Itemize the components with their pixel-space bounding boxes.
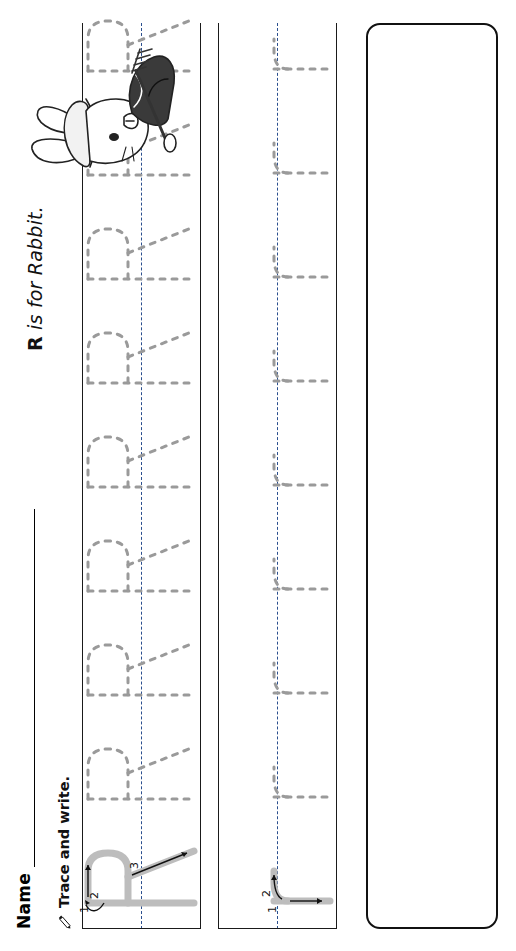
trace-letter-lowercase-1[interactable] — [218, 733, 336, 811]
trace-letter-uppercase-5[interactable] — [82, 317, 200, 395]
instruction-trace-and-write: Trace and write. — [56, 776, 72, 929]
title-letter: R — [24, 336, 46, 351]
name-label: Name — [14, 873, 35, 929]
trace-letter-lowercase-5[interactable] — [218, 317, 336, 395]
instruction-1-text: Trace and write. — [56, 776, 72, 908]
svg-text:3: 3 — [128, 862, 141, 869]
pencil-icon — [58, 914, 71, 929]
trace-letter-lowercase-2[interactable] — [218, 629, 336, 707]
rule-baseline-solid-2 — [336, 23, 337, 929]
trace-letter-lowercase-6[interactable] — [218, 213, 336, 291]
lowercase-glyph-row: 1 2 — [218, 23, 336, 929]
model-letter-lowercase: 1 2 — [218, 837, 336, 915]
handwriting-worksheet: Name R is for Rabbit. Trace and write. — [0, 0, 516, 951]
model-letter-uppercase: 1 2 3 — [82, 837, 200, 915]
trace-letter-lowercase-3[interactable] — [218, 525, 336, 603]
svg-text:2: 2 — [88, 892, 101, 899]
practice-band-lowercase[interactable]: 1 2 — [218, 23, 336, 929]
rule-baseline-solid — [200, 23, 201, 929]
trace-letter-uppercase-4[interactable] — [82, 421, 200, 499]
name-field[interactable]: Name — [14, 509, 35, 929]
trace-letter-uppercase-6[interactable] — [82, 213, 200, 291]
svg-text:1: 1 — [78, 906, 91, 913]
name-input-rule[interactable] — [20, 509, 35, 867]
trace-letter-lowercase-4[interactable] — [218, 421, 336, 499]
title-rest: is for Rabbit. — [24, 206, 46, 336]
trace-letter-lowercase-8[interactable] — [218, 5, 336, 83]
circle-activity-box[interactable] — [366, 23, 498, 929]
trace-letter-uppercase-3[interactable] — [82, 525, 200, 603]
page-title: R is for Rabbit. — [24, 206, 46, 351]
svg-text:2: 2 — [260, 890, 273, 897]
trace-letter-uppercase-1[interactable] — [82, 733, 200, 811]
svg-text:1: 1 — [266, 906, 279, 913]
worksheet-rotator: Name R is for Rabbit. Trace and write. — [0, 0, 516, 951]
trace-letter-lowercase-7[interactable] — [218, 109, 336, 187]
rabbit-illustration — [28, 21, 178, 191]
trace-letter-uppercase-2[interactable] — [82, 629, 200, 707]
